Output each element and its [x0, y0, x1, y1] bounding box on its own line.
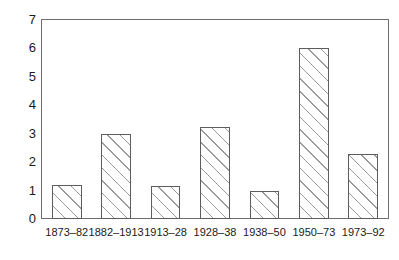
- bar[interactable]: [299, 48, 329, 219]
- bar[interactable]: [151, 186, 181, 219]
- y-tick-label: 0: [0, 212, 36, 225]
- bar-chart: 01234567 1873–821882–19131913–281928–381…: [0, 0, 399, 260]
- bar[interactable]: [200, 127, 230, 219]
- bar[interactable]: [250, 191, 280, 219]
- bar-slot: [52, 20, 82, 219]
- bar[interactable]: [52, 185, 82, 219]
- x-tick-label: 1928–38: [194, 226, 237, 238]
- y-tick-label: 7: [0, 13, 36, 26]
- bar[interactable]: [348, 154, 378, 219]
- bar-slot: [250, 20, 280, 219]
- y-tick-label: 2: [0, 155, 36, 168]
- y-tick-label: 4: [0, 98, 36, 111]
- bar-slot: [200, 20, 230, 219]
- y-tick-label: 5: [0, 69, 36, 82]
- x-tick-label: 1950–73: [292, 226, 335, 238]
- x-tick-label: 1973–92: [342, 226, 385, 238]
- bar-slot: [299, 20, 329, 219]
- bar-slot: [151, 20, 181, 219]
- x-tick-label: 1873–82: [45, 226, 88, 238]
- x-tick-label: 1913–28: [144, 226, 187, 238]
- y-axis: 01234567: [0, 19, 36, 219]
- x-axis: 1873–821882–19131913–281928–381938–50195…: [42, 226, 388, 246]
- y-tick-label: 6: [0, 41, 36, 54]
- bar-slot: [101, 20, 131, 219]
- y-tick-label: 1: [0, 183, 36, 196]
- x-tick-label: 1938–50: [243, 226, 286, 238]
- bar[interactable]: [101, 134, 131, 219]
- bar-slot: [348, 20, 378, 219]
- bars-layer: [42, 20, 388, 219]
- y-tick-label: 3: [0, 126, 36, 139]
- x-tick-label: 1882–1913: [89, 226, 144, 238]
